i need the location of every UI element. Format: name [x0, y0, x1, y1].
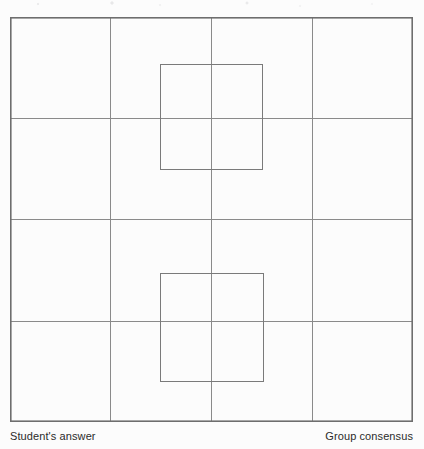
grid-diagram-svg	[0, 0, 424, 449]
caption-row: Student's answer Group consensus	[10, 430, 413, 446]
group-consensus-label: Group consensus	[325, 430, 413, 443]
students-answer-label: Student's answer	[10, 430, 96, 443]
scanned-page: Student's answer Group consensus	[0, 0, 424, 449]
grid-diagram-figure	[0, 0, 424, 449]
